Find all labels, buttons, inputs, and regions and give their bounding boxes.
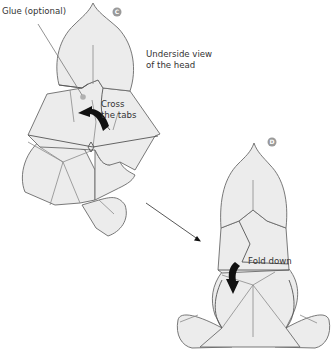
glue-dot bbox=[80, 94, 86, 100]
step-d-figure bbox=[177, 143, 329, 348]
fold-down-label: Fold down bbox=[248, 256, 292, 266]
step-c-figure bbox=[22, 3, 160, 236]
glue-label: Glue (optional) bbox=[2, 6, 66, 16]
cross-tabs-line2: the tabs bbox=[101, 110, 137, 120]
lower-round-flap bbox=[82, 198, 126, 236]
caption-line1: Underside view bbox=[146, 49, 212, 59]
step-c-badge: C bbox=[113, 8, 122, 17]
cross-tabs-line1: Cross bbox=[101, 99, 125, 109]
step-d-badge: D bbox=[268, 138, 277, 147]
instruction-diagram: C Glue (optional) Underside view of the … bbox=[0, 0, 333, 350]
next-step-arrow-icon bbox=[146, 203, 201, 242]
caption-line2: of the head bbox=[146, 60, 195, 70]
head-shape bbox=[57, 3, 134, 91]
step-d-badge-letter: D bbox=[270, 138, 275, 145]
step-c-badge-letter: C bbox=[115, 8, 120, 15]
